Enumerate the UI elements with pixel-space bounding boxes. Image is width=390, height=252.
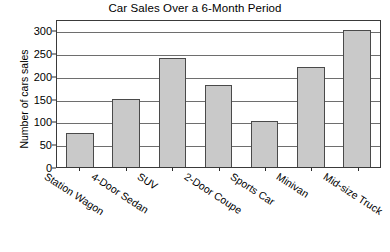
bar-slot bbox=[195, 21, 241, 167]
bar bbox=[205, 85, 233, 167]
plot-area bbox=[56, 20, 381, 168]
y-tick-label: 150 bbox=[34, 94, 52, 105]
bar-slot bbox=[288, 21, 334, 167]
bar-slot bbox=[57, 21, 103, 167]
bar bbox=[251, 121, 279, 167]
x-tick-mark bbox=[219, 168, 220, 171]
x-tick-mark bbox=[79, 168, 80, 171]
x-tick-label: Mid-size Truck bbox=[321, 170, 384, 217]
bar-series bbox=[57, 21, 380, 167]
bar bbox=[159, 58, 187, 167]
chart-title: Car Sales Over a 6-Month Period bbox=[0, 2, 390, 14]
x-tick-label: SUV bbox=[136, 170, 161, 192]
y-tick-label: 300 bbox=[34, 26, 52, 37]
bar-slot bbox=[242, 21, 288, 167]
x-axis-tick-labels: Station Wagon4-Door SedanSUV2-Door Coupe… bbox=[56, 170, 381, 250]
y-tick-label: 200 bbox=[34, 71, 52, 82]
bar bbox=[66, 133, 94, 167]
y-tick-label: 50 bbox=[40, 140, 52, 151]
x-tick-mark bbox=[126, 168, 127, 171]
x-tick-mark bbox=[265, 168, 266, 171]
bar bbox=[297, 67, 325, 167]
bar-chart: Car Sales Over a 6-Month Period Number o… bbox=[0, 0, 390, 252]
bar-slot bbox=[103, 21, 149, 167]
x-tick-label: Minivan bbox=[275, 170, 312, 200]
x-tick-mark bbox=[311, 168, 312, 171]
bar bbox=[343, 30, 371, 167]
x-tick-mark bbox=[358, 168, 359, 171]
y-axis-tick-labels: 050100150200250300 bbox=[22, 20, 56, 168]
bar-slot bbox=[334, 21, 380, 167]
x-tick-mark bbox=[172, 168, 173, 171]
y-tick-label: 100 bbox=[34, 117, 52, 128]
bar bbox=[112, 99, 140, 167]
bar-slot bbox=[149, 21, 195, 167]
y-tick-label: 250 bbox=[34, 49, 52, 60]
